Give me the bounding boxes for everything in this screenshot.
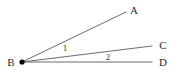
angle-label-2: 2 [106,53,111,62]
ray-bc [22,46,152,62]
point-label-a: A [130,5,138,16]
angle-diagram: B A C D 1 2 [0,0,182,77]
point-label-d: D [159,57,167,68]
ray-ba [22,12,126,62]
point-label-b: B [7,57,14,68]
vertex-dot-b [19,59,24,64]
angle-label-1: 1 [63,44,68,53]
diagram-canvas [0,0,182,77]
point-label-c: C [159,40,166,51]
